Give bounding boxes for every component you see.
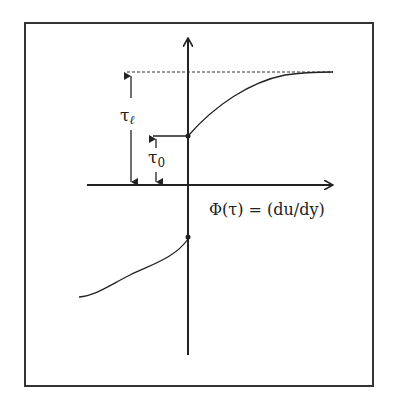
upper-point <box>186 134 191 139</box>
tau-0-label: τ0 <box>148 147 165 170</box>
x-axis-label: Φ(τ) = (du/dy) <box>209 200 325 219</box>
lower-point <box>186 235 191 240</box>
diagram-canvas: τℓ τ0 Φ(τ) = (du/dy) <box>0 0 395 400</box>
lower-curve <box>79 239 188 297</box>
tau-l-label: τℓ <box>120 105 134 127</box>
upper-curve <box>188 72 333 136</box>
